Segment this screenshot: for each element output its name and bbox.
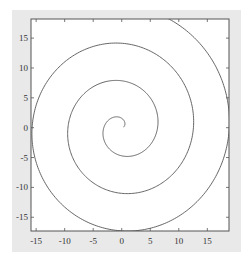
y-tick-label: 10 [19,63,29,73]
x-tick-label: 15 [203,236,213,246]
x-tick-label: -10 [59,236,71,246]
y-tick-label: 5 [24,93,29,103]
y-tick-label: -10 [16,182,28,192]
x-tick-label: 10 [174,236,184,246]
y-tick-label: 15 [19,33,29,43]
y-tick-label: -5 [21,153,29,163]
x-tick-label: 0 [119,236,124,246]
x-tick-label: -5 [89,236,97,246]
y-tick-label: 0 [24,123,29,133]
x-tick-label: 5 [148,236,153,246]
y-tick-label: -15 [16,212,28,222]
figure: -15-10-5051015 -15-10-5051015 [0,0,251,266]
x-tick-label: -15 [30,236,42,246]
